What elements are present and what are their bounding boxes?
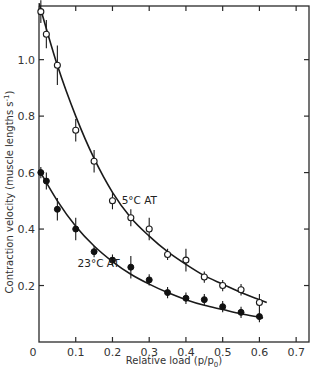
fit-curve-23c [39,170,263,318]
open-circle-marker [183,257,189,263]
filled-circle-marker [201,297,207,303]
x-tick-label: 0.2 [104,346,122,359]
filled-circle-marker [146,277,152,283]
open-circle-marker [256,299,262,305]
y-axis-label: Contraction velocity (muscle lengths s-1… [3,90,15,293]
filled-circle-marker [91,249,97,255]
filled-circle-marker [238,309,244,315]
open-circle-marker [73,127,79,133]
x-axis-ticks: 00.10.20.30.40.50.60.7 [30,6,305,359]
filled-circle-marker [183,295,189,301]
y-tick-label: 0.8 [18,110,36,123]
fit-curve-5c [39,3,267,302]
x-tick-label: 0 [30,346,37,359]
open-circle-marker [54,62,60,68]
open-circle-marker [43,31,49,37]
data-points [38,0,263,322]
filled-circle-marker [220,304,226,310]
fit-curves [39,3,267,318]
open-circle-marker [38,9,44,15]
open-circle-marker [146,226,152,232]
x-tick-label: 0.1 [67,346,85,359]
filled-circle-marker [128,264,134,270]
x-tick-label: 0.6 [251,346,269,359]
open-circle-marker [220,283,226,289]
x-axis-label: Relative load (p/p0) [126,355,223,369]
y-tick-label: 0.4 [18,223,36,236]
y-tick-label: 0.6 [18,167,36,180]
open-circle-marker [201,274,207,280]
series-label-23c: 23°C AT [78,257,121,269]
series-label-5c: 5°C AT [122,194,158,206]
filled-circle-marker [54,206,60,212]
filled-circle-marker [256,314,262,320]
y-axis-ticks: 0.20.40.60.81.0 [18,54,310,293]
open-circle-marker [165,251,171,257]
filled-circle-marker [43,178,49,184]
open-circle-marker [128,215,134,221]
plot-frame [39,6,309,342]
y-tick-label: 1.0 [18,54,36,67]
open-circle-marker [109,198,115,204]
series-annotations: 5°C AT23°C AT [78,194,158,270]
x-tick-label: 0.7 [287,346,305,359]
chart-figure: 00.10.20.30.40.50.60.7 0.20.40.60.81.0 5… [0,0,315,375]
open-circle-marker [91,158,97,164]
x-tick-label: 0.5 [214,346,232,359]
open-circle-marker [238,287,244,293]
filled-circle-marker [165,290,171,296]
y-tick-label: 0.2 [18,280,36,293]
filled-circle-marker [73,226,79,232]
filled-circle-marker [38,170,44,176]
